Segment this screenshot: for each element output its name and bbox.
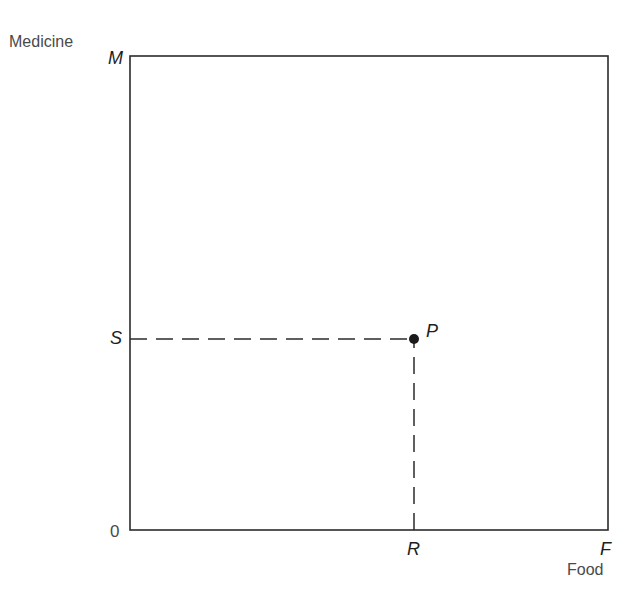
- axes-box: [130, 56, 608, 530]
- label-r: R: [407, 540, 420, 558]
- label-p: P: [426, 322, 438, 340]
- label-s: S: [110, 329, 122, 347]
- point-p-marker: [409, 334, 419, 344]
- label-origin: 0: [110, 523, 119, 540]
- y-axis-title: Medicine: [9, 34, 73, 50]
- label-m: M: [108, 49, 123, 67]
- label-f: F: [600, 540, 611, 558]
- diagram-canvas: [0, 0, 636, 595]
- x-axis-title: Food: [567, 562, 603, 578]
